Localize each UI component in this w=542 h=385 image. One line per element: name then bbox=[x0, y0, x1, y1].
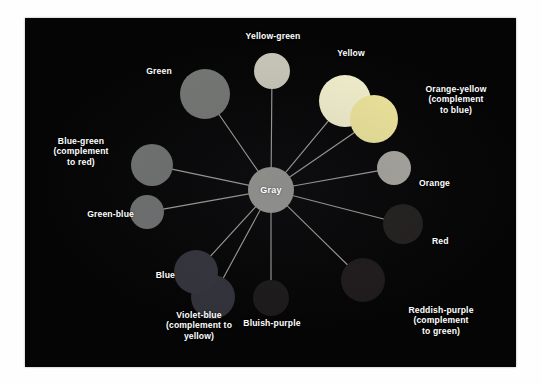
label-blue-green: Blue-green (complement to red) bbox=[37, 136, 125, 167]
label-green: Green bbox=[130, 66, 188, 76]
label-orange-yellow: Orange-yellow (complement to blue) bbox=[403, 84, 509, 115]
circle-green-blue bbox=[130, 195, 164, 229]
spoke-red bbox=[291, 195, 385, 219]
circle-orange-yellow bbox=[350, 95, 398, 143]
circle-orange bbox=[377, 151, 411, 185]
label-violet-blue: Violet-blue (complement to yellow) bbox=[140, 310, 258, 341]
spoke-orange-yellow bbox=[288, 131, 356, 178]
label-yellow-green: Yellow-green bbox=[225, 31, 321, 41]
spoke-yellow-green bbox=[271, 87, 272, 169]
label-orange: Orange bbox=[419, 178, 475, 188]
label-blue: Blue bbox=[135, 270, 175, 280]
circle-red bbox=[383, 204, 423, 244]
spoke-orange bbox=[292, 171, 380, 187]
label-red: Red bbox=[432, 236, 472, 246]
diagram-page: Yellow-greenYellowOrange-yellow (complem… bbox=[0, 0, 542, 385]
spoke-green-blue bbox=[162, 194, 251, 210]
circle-reddish-purple bbox=[341, 258, 385, 302]
label-green-blue: Green-blue bbox=[58, 209, 134, 219]
spoke-green bbox=[218, 113, 259, 173]
label-yellow: Yellow bbox=[321, 48, 381, 58]
circle-blue bbox=[174, 250, 218, 294]
hub-label: Gray bbox=[231, 185, 311, 195]
label-reddish-purple: Reddish-purple (complement to green) bbox=[385, 305, 497, 336]
circle-yellow-green bbox=[254, 53, 290, 89]
spoke-blue-green bbox=[171, 169, 251, 186]
circle-bluish-purple bbox=[253, 280, 289, 316]
spoke-blue bbox=[209, 205, 256, 257]
color-wheel-panel: Yellow-greenYellowOrange-yellow (complem… bbox=[25, 18, 516, 367]
spoke-reddish-purple bbox=[286, 205, 349, 266]
spoke-violet-blue bbox=[223, 208, 261, 279]
circle-green bbox=[180, 69, 230, 119]
circle-blue-green bbox=[131, 144, 173, 186]
